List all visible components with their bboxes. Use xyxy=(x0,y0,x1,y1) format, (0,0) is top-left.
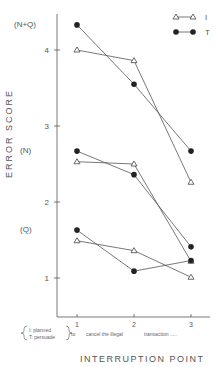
triangle-marker-icon xyxy=(188,179,194,184)
legend-circle-icon xyxy=(190,29,196,35)
circle-marker-icon xyxy=(131,81,137,87)
circle-marker-icon xyxy=(131,172,137,178)
legend-label-t: T xyxy=(205,28,210,37)
triangle-marker-icon xyxy=(74,159,80,164)
y-tick-label: 2 xyxy=(45,198,50,207)
y-axis-title: ERROR SCORE xyxy=(4,89,14,178)
legend-triangle-icon xyxy=(190,14,196,19)
x-axis-title: INTERRUPTION POINT xyxy=(80,354,205,364)
y-tick-label: 4 xyxy=(45,46,50,55)
circle-marker-icon xyxy=(74,22,80,28)
annotation-q: (Q) xyxy=(20,225,32,234)
annotation-n: (N) xyxy=(20,146,31,155)
line-chart: 1234123 xyxy=(0,0,220,367)
x-tick-label: 1 xyxy=(75,321,79,328)
circle-marker-icon xyxy=(74,227,80,233)
y-tick-label: 3 xyxy=(45,122,50,131)
triangle-marker-icon xyxy=(131,161,137,166)
circle-marker-icon xyxy=(131,268,137,274)
circle-marker-icon xyxy=(188,244,194,250)
note-cancel: cancel the illegal xyxy=(86,331,123,337)
x-tick-label: 3 xyxy=(189,321,193,328)
y-tick-label: 1 xyxy=(45,274,50,283)
legend-triangle-icon xyxy=(173,14,179,19)
note-transaction: transaction ..... xyxy=(144,331,177,337)
series-line-t xyxy=(77,25,191,151)
legend-label-i: I xyxy=(205,13,207,22)
circle-marker-icon xyxy=(188,258,194,264)
triangle-marker-icon xyxy=(188,274,194,279)
legend-circle-icon xyxy=(173,29,179,35)
annotation-n-plus-q: (N+Q) xyxy=(14,20,36,29)
triangle-marker-icon xyxy=(74,238,80,243)
x-tick-label: 2 xyxy=(132,321,136,328)
circle-marker-icon xyxy=(74,148,80,154)
note-brace-bottom: T: persuade xyxy=(29,334,55,340)
brace-left xyxy=(21,326,27,340)
circle-marker-icon xyxy=(188,148,194,154)
triangle-marker-icon xyxy=(74,47,80,52)
note-to: to xyxy=(71,331,75,337)
note-brace-top: I: planned xyxy=(29,327,51,333)
